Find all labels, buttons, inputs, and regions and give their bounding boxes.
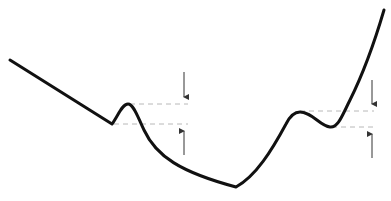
energy-curve — [10, 10, 384, 187]
potential-energy-diagram — [0, 0, 391, 201]
diagram-canvas — [0, 0, 391, 201]
